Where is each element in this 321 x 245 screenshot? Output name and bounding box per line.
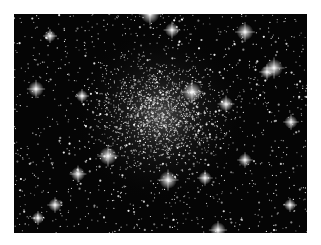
star-field-canvas [14,14,307,233]
star-cluster-photo [14,14,307,233]
